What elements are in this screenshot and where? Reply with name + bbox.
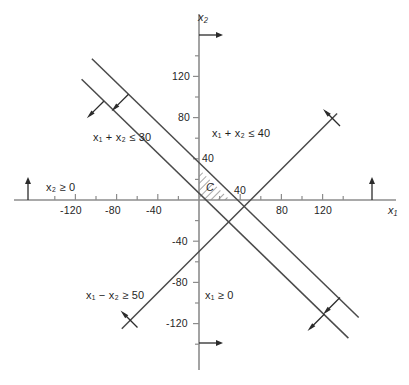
direction-arrow-x1-nonneg-lower <box>199 340 223 346</box>
figure-container: x₂ x₁ -120 -80 -40 40 80 120 120 80 40 -… <box>0 0 409 385</box>
y-tick-label--80: -80 <box>172 277 188 288</box>
region-label-c: C <box>206 182 214 193</box>
y-tick-label-40: 40 <box>202 153 214 164</box>
direction-arrow-sum-40-upper <box>112 94 129 111</box>
constraint-label-sum-30: x₁ + x₂ ≤ 30 <box>93 132 151 143</box>
direction-arrow-diff-50-lower <box>121 311 138 328</box>
direction-arrow-x2-nonneg-left <box>25 177 31 200</box>
direction-arrow-x2-nonneg-right <box>369 177 375 200</box>
constraint-label-diff-50: x₁ − x₂ ≥ 50 <box>86 290 144 301</box>
y-axis-label: x₂ <box>198 12 208 23</box>
constraint-label-x2-nonneg: x₂ ≥ 0 <box>46 182 75 193</box>
direction-arrow-x1-nonneg-upper <box>199 32 223 38</box>
y-tick-label-80: 80 <box>178 112 190 123</box>
y-tick-label-120: 120 <box>172 71 190 82</box>
direction-arrow-diff-50-upper <box>323 109 340 126</box>
x-tick-label--80: -80 <box>105 205 121 216</box>
x-tick-label-40: 40 <box>234 185 246 196</box>
y-tick-label--120: -120 <box>166 318 188 329</box>
x-tick-label-80: 80 <box>276 205 288 216</box>
x-tick-label--40: -40 <box>146 205 162 216</box>
x-tick-label-120: 120 <box>314 205 332 216</box>
direction-arrow-sum-30-lower <box>308 314 325 331</box>
direction-arrow-sum-40-lower <box>323 298 340 315</box>
constraint-line-sum-40 <box>92 59 359 318</box>
y-tick-label--40: -40 <box>172 236 188 247</box>
direction-arrow-sum-30-upper <box>87 101 104 118</box>
constraint-label-sum-40: x₁ + x₂ ≤ 40 <box>212 128 270 139</box>
x-axis-label: x₁ <box>388 205 397 216</box>
x-tick-label--120: -120 <box>60 205 82 216</box>
feasible-region-c <box>199 169 230 200</box>
constraint-label-x1-nonneg: x₁ ≥ 0 <box>205 290 234 301</box>
